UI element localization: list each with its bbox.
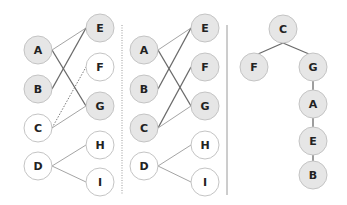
node-tree-g: G (299, 53, 327, 81)
edge-tree-c-g (283, 43, 309, 54)
node-label: E (201, 22, 209, 35)
node-left-i: I (86, 168, 114, 196)
node-label: I (203, 176, 207, 189)
node-left-g: G (86, 92, 114, 120)
node-label: I (98, 176, 102, 189)
node-label: F (250, 61, 258, 74)
node-middle-a: A (130, 36, 158, 64)
node-tree-a: A (299, 90, 327, 118)
node-label: G (308, 61, 317, 74)
node-left-h: H (86, 131, 114, 159)
bipartite-matching-diagram: ABCDEFGHIABCDEFGHICFGAEB (0, 0, 347, 205)
node-middle-g: G (191, 92, 219, 120)
node-left-b: B (24, 75, 52, 103)
node-left-d: D (24, 152, 52, 180)
edge-left-d-i (52, 166, 86, 182)
node-middle-e: E (191, 14, 219, 42)
node-label: G (95, 100, 104, 113)
node-middle-i: I (191, 168, 219, 196)
node-label: A (140, 44, 149, 57)
node-label: E (309, 135, 317, 148)
node-label: A (34, 44, 43, 57)
node-middle-c: C (130, 114, 158, 142)
edge-left-c-g (52, 106, 86, 128)
node-label: H (95, 139, 104, 152)
node-label: C (140, 122, 148, 135)
node-tree-c: C (269, 15, 297, 43)
node-label: B (140, 83, 148, 96)
node-label: C (279, 23, 287, 36)
edge-tree-c-f (258, 43, 283, 54)
node-label: F (96, 61, 104, 74)
node-label: D (139, 160, 148, 173)
node-left-e: E (86, 14, 114, 42)
node-left-f: F (86, 53, 114, 81)
edge-left-a-e (52, 28, 86, 50)
edge-middle-c-g (158, 106, 191, 128)
node-label: B (309, 169, 317, 182)
node-left-a: A (24, 36, 52, 64)
node-label: B (34, 83, 42, 96)
edge-left-d-h (52, 145, 86, 166)
node-left-c: C (24, 114, 52, 142)
node-middle-f: F (191, 53, 219, 81)
node-label: D (33, 160, 42, 173)
node-tree-b: B (299, 161, 327, 189)
diagram-canvas: ABCDEFGHIABCDEFGHICFGAEB (0, 0, 347, 205)
node-label: E (96, 22, 104, 35)
node-tree-e: E (299, 127, 327, 155)
node-middle-d: D (130, 152, 158, 180)
graph-nodes: ABCDEFGHIABCDEFGHICFGAEB (24, 14, 327, 196)
node-label: G (200, 100, 209, 113)
edge-middle-d-i (158, 166, 191, 182)
node-label: C (34, 122, 42, 135)
node-tree-f: F (240, 53, 268, 81)
edge-middle-d-h (158, 145, 191, 166)
node-label: F (201, 61, 209, 74)
node-middle-h: H (191, 131, 219, 159)
edge-middle-a-e (158, 28, 191, 50)
node-label: A (309, 98, 318, 111)
node-label: H (200, 139, 209, 152)
node-middle-b: B (130, 75, 158, 103)
